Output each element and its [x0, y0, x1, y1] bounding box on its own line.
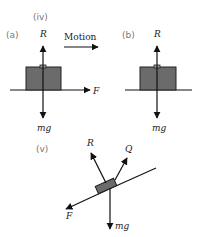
applied-arrow-v	[115, 158, 127, 180]
diagram-v: R Q F mg	[65, 138, 156, 231]
reaction-label-b: R	[153, 29, 161, 39]
block-v	[95, 178, 117, 193]
reaction-label-a: R	[39, 29, 47, 39]
reaction-label-v: R	[86, 138, 94, 148]
diagram-b: R mg	[125, 29, 192, 133]
motion-label: Motion	[64, 32, 97, 42]
applied-label-v: Q	[125, 144, 133, 154]
weight-label-b: mg	[152, 123, 167, 133]
force-diagrams: (iv) (a) (b) (v) Motion R F mg R mg R	[0, 0, 200, 237]
block-b	[140, 67, 176, 90]
diagram-a: R F mg	[10, 29, 100, 133]
weight-label-v: mg	[115, 221, 130, 231]
reaction-arrow-v	[91, 153, 106, 183]
diagram-a-label: (a)	[6, 30, 19, 40]
part-iv-label: (iv)	[33, 12, 48, 22]
weight-label-a: mg	[37, 123, 52, 133]
friction-label-v: F	[65, 211, 73, 221]
diagram-b-label: (b)	[122, 30, 135, 40]
friction-label-a: F	[92, 86, 100, 96]
part-v-label: (v)	[36, 144, 48, 154]
